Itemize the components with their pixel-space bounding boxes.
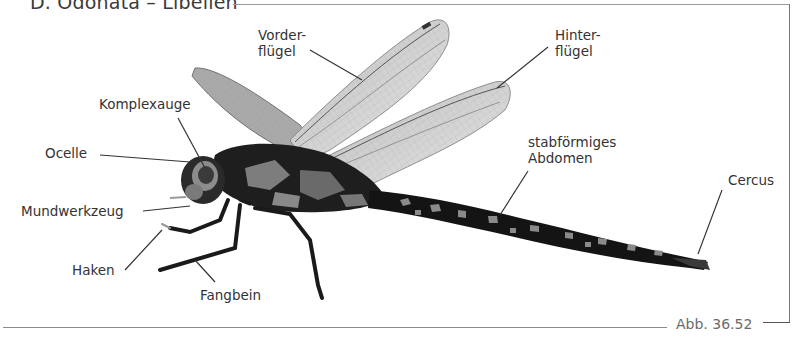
label-vorderfluegel: Vorder- flügel xyxy=(258,27,306,59)
leader-vorderfluegel xyxy=(310,50,362,80)
leader-abdomen xyxy=(500,171,528,215)
label-haken: Haken xyxy=(72,262,115,278)
abdomen xyxy=(368,190,710,270)
label-hinterfluegel-line2: flügel xyxy=(555,43,601,59)
label-ocelle: Ocelle xyxy=(45,145,87,161)
label-hinterfluegel-line1: Hinter- xyxy=(555,27,601,43)
leader-hinterfluegel xyxy=(497,47,548,88)
label-abdomen: stabförmiges Abdomen xyxy=(528,134,616,166)
label-vorderfluegel-line1: Vorder- xyxy=(258,27,306,43)
leader-haken xyxy=(125,230,162,270)
leader-mundwerkzeug xyxy=(143,206,190,211)
label-mundwerkzeug: Mundwerkzeug xyxy=(21,203,124,219)
leader-cercus xyxy=(698,190,722,254)
dragonfly-illustration xyxy=(0,0,804,338)
legs xyxy=(160,200,322,298)
hind-wing-left xyxy=(192,68,304,150)
leader-ocelle xyxy=(100,155,190,162)
label-komplexauge: Komplexauge xyxy=(99,96,191,112)
label-abdomen-line2: Abdomen xyxy=(528,150,616,166)
label-vorderfluegel-line2: flügel xyxy=(258,43,306,59)
head xyxy=(170,156,225,204)
label-abdomen-line1: stabförmiges xyxy=(528,134,616,150)
label-hinterfluegel: Hinter- flügel xyxy=(555,27,601,59)
label-cercus: Cercus xyxy=(728,172,774,188)
label-fangbein: Fangbein xyxy=(200,287,261,303)
leader-fangbein xyxy=(195,260,215,282)
